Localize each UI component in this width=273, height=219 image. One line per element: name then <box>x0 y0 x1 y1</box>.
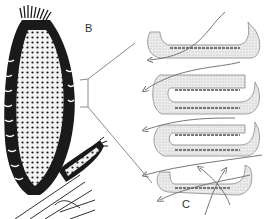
panel-label-b: B <box>85 22 92 34</box>
canal-system-diagram <box>145 12 262 215</box>
diagram-canvas <box>0 0 273 219</box>
panel-label-c: C <box>182 198 190 210</box>
